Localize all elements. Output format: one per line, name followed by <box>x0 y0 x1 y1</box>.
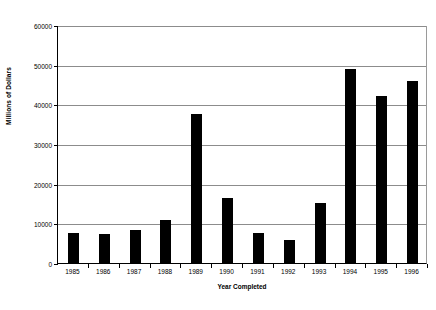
y-tick-mark <box>54 145 58 146</box>
bar <box>407 81 418 263</box>
y-tick-label: 10000 <box>6 221 52 228</box>
bar <box>222 198 233 263</box>
gridline <box>58 185 426 186</box>
y-tick-mark <box>54 224 58 225</box>
y-tick-mark <box>54 105 58 106</box>
bar <box>376 96 387 263</box>
bar <box>284 240 295 263</box>
y-tick-label: 20000 <box>6 181 52 188</box>
y-tick-label: 30000 <box>6 142 52 149</box>
gridline <box>58 224 426 225</box>
y-tick-label: 0 <box>6 261 52 268</box>
gridline <box>58 26 426 27</box>
bar <box>160 220 171 263</box>
bar <box>191 114 202 263</box>
bar <box>68 233 79 263</box>
plot-area <box>57 26 427 264</box>
gridline <box>58 145 426 146</box>
y-tick-mark <box>54 185 58 186</box>
bar <box>253 233 264 263</box>
y-tick-mark <box>54 66 58 67</box>
y-tick-mark <box>54 264 58 265</box>
bar <box>315 203 326 263</box>
y-tick-label: 50000 <box>6 62 52 69</box>
y-tick-label: 60000 <box>6 23 52 30</box>
y-tick-mark <box>54 26 58 27</box>
bar <box>130 230 141 263</box>
bar-chart: Millions of Dollars 01000020000300004000… <box>0 0 436 310</box>
gridline <box>58 105 426 106</box>
bar <box>99 234 110 263</box>
gridline <box>58 66 426 67</box>
x-tick-label: 1996 <box>392 268 432 275</box>
x-axis-title: Year Completed <box>57 283 427 290</box>
y-tick-label: 40000 <box>6 102 52 109</box>
bar <box>345 69 356 263</box>
